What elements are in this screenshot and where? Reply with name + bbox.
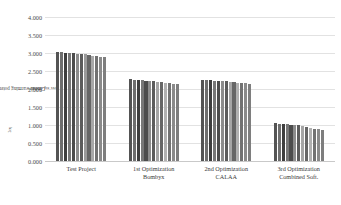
- y-axis-tick-label: 2.500: [28, 68, 42, 75]
- category-label-line1: 2nd Optimization: [205, 165, 248, 172]
- y-axis-title: Global warming potential impact - kg CO2…: [0, 0, 16, 178]
- y-axis-title-subscript: 2eq: [8, 127, 12, 132]
- axis-baseline: [45, 161, 335, 162]
- bar: [168, 83, 171, 161]
- category-label-line2: Combined Soft.: [263, 173, 336, 181]
- y-axis-tick-label: 2.000: [28, 86, 42, 93]
- bar: [248, 84, 251, 161]
- bar: [289, 125, 292, 161]
- bar-groups: [45, 17, 335, 161]
- category-label-line1: 3rd Optimization: [278, 165, 320, 172]
- bar: [144, 81, 147, 161]
- bar: [84, 54, 87, 161]
- bar: [172, 84, 175, 161]
- bar: [64, 53, 67, 161]
- bar: [313, 129, 316, 161]
- bar: [91, 56, 94, 161]
- x-axis-category-label: Test Project: [45, 165, 118, 203]
- y-axis-tick-label: 3.000: [28, 50, 42, 57]
- bar-group-inner: [129, 17, 179, 161]
- bar-group-inner: [274, 17, 324, 161]
- bar: [317, 129, 320, 161]
- bar: [278, 124, 281, 161]
- bar: [301, 126, 304, 161]
- bar: [305, 127, 308, 161]
- y-axis-tick-label: 1.500: [28, 104, 42, 111]
- bar: [225, 81, 228, 161]
- bar: [176, 84, 179, 161]
- bar: [240, 83, 243, 161]
- bar: [103, 57, 106, 161]
- bar: [286, 124, 289, 161]
- bar: [293, 125, 296, 161]
- bar-group: [190, 17, 263, 161]
- bar-group-inner: [56, 17, 106, 161]
- bar: [274, 123, 277, 161]
- x-axis-category-label: 2nd OptimizationCALAA: [190, 165, 263, 203]
- bar: [156, 82, 159, 161]
- y-axis-tick-label: 0.500: [28, 140, 42, 147]
- bar: [160, 82, 163, 161]
- bar: [80, 54, 83, 161]
- bar: [229, 82, 232, 161]
- bar: [141, 80, 144, 161]
- bar: [205, 80, 208, 161]
- x-axis-category-label: 3rd OptimizationCombined Soft.: [263, 165, 336, 203]
- category-label-line1: Test Project: [67, 165, 96, 172]
- bar: [76, 54, 79, 161]
- category-label-line1: 1st Optimization: [133, 165, 174, 172]
- bar-group: [263, 17, 336, 161]
- bar: [133, 80, 136, 161]
- bar: [282, 124, 285, 161]
- y-axis-tick-label: 4.000: [28, 14, 42, 21]
- bar: [68, 53, 71, 161]
- bar: [95, 56, 98, 161]
- category-label-line2: CALAA: [190, 173, 263, 181]
- y-axis-tick-labels: 4.0003.5003.0002.5002.0001.5001.0000.500…: [16, 17, 44, 161]
- plot-area: [45, 17, 335, 161]
- bar: [56, 52, 59, 161]
- bar: [201, 80, 204, 161]
- bar: [152, 81, 155, 161]
- category-label-line2: Bombyx: [118, 173, 191, 181]
- bar: [297, 125, 300, 161]
- x-axis-category-labels: Test Project1st OptimizationBombyx2nd Op…: [45, 165, 335, 203]
- x-axis-category-label: 1st OptimizationBombyx: [118, 165, 191, 203]
- bar: [99, 57, 102, 161]
- bar-group: [118, 17, 191, 161]
- bar-group: [45, 17, 118, 161]
- bar: [321, 130, 324, 161]
- bar: [232, 82, 235, 161]
- bar: [309, 128, 312, 161]
- bar-chart: Global warming potential impact - kg CO2…: [0, 0, 341, 205]
- y-axis-tick-label: 1.000: [28, 122, 42, 129]
- bar: [164, 83, 167, 161]
- bar: [244, 83, 247, 161]
- bar-group-inner: [201, 17, 251, 161]
- bar: [148, 81, 151, 161]
- bar: [213, 81, 216, 161]
- bar: [217, 81, 220, 161]
- bar: [60, 52, 63, 161]
- y-axis-tick-label: 3.500: [28, 32, 42, 39]
- bar: [137, 80, 140, 161]
- bar: [236, 83, 239, 161]
- bar: [72, 53, 75, 161]
- bar: [129, 79, 132, 161]
- bar: [87, 55, 90, 161]
- bar: [221, 81, 224, 161]
- y-axis-tick-label: 0.000: [28, 158, 42, 165]
- bar: [209, 80, 212, 161]
